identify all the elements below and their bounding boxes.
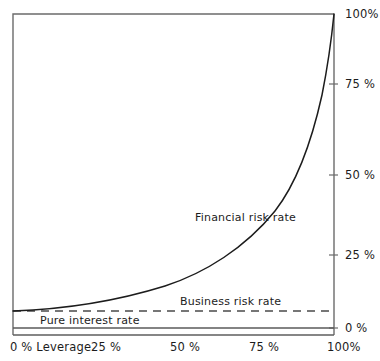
y-tick-label-25: 25 % bbox=[345, 248, 375, 262]
x-tick-label-75: 75 % bbox=[249, 340, 279, 354]
financial-risk-rate-curve bbox=[13, 14, 334, 311]
annotation-business-risk-rate: Business risk rate bbox=[180, 295, 281, 308]
x-tick-label-25: 25 % bbox=[91, 340, 121, 354]
annotation-financial-risk-rate: Financial risk rate bbox=[195, 211, 296, 224]
x-tick-label-50: 50 % bbox=[170, 340, 200, 354]
plot-frame bbox=[13, 14, 334, 335]
y-tick-label-75: 75 % bbox=[345, 77, 375, 91]
annotation-pure-interest-rate: Pure interest rate bbox=[40, 314, 140, 327]
y-tick-label-100: 100% bbox=[345, 7, 379, 21]
x-tick-label-100: 100% bbox=[327, 340, 361, 354]
y-tick-label-0: 0 % bbox=[345, 321, 368, 335]
x-tick-label-0: 0 % Leverage bbox=[10, 340, 91, 354]
y-tick-label-50: 50 % bbox=[345, 168, 375, 182]
chart-container: Financial risk rate Business risk rate P… bbox=[0, 0, 380, 361]
